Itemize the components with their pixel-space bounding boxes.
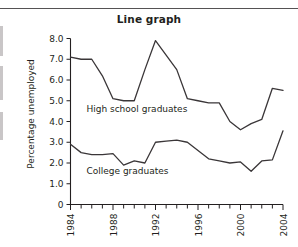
x-tick-label: 1996 <box>194 213 204 236</box>
line-graph-figure: Line graph Percentage unemployed 8.07.06… <box>0 0 298 247</box>
y-tick-label: 0 <box>58 200 64 210</box>
y-tick-label: 1.0 <box>49 179 64 189</box>
x-tick-label: 1984 <box>66 213 76 236</box>
plot-area: 8.07.06.05.04.03.02.01.00 19841988199219… <box>0 0 298 247</box>
y-tick-label: 3.0 <box>49 137 64 147</box>
y-tick-label: 6.0 <box>49 75 64 85</box>
series-line <box>71 41 284 130</box>
y-tick-label: 4.0 <box>49 117 64 127</box>
y-tick-label: 5.0 <box>49 96 64 106</box>
x-tick-label: 2004 <box>279 213 289 236</box>
x-axis-ticks: 198419881992199620002004 <box>66 205 289 237</box>
x-tick-label: 1988 <box>109 213 119 236</box>
series-line <box>71 131 284 171</box>
x-tick-label: 1992 <box>151 214 161 237</box>
y-tick-label: 7.0 <box>49 54 64 64</box>
y-axis-ticks: 8.07.06.05.04.03.02.01.00 <box>49 34 70 210</box>
y-tick-label: 8.0 <box>49 34 64 44</box>
x-tick-label: 2000 <box>236 213 246 236</box>
y-tick-label: 2.0 <box>49 158 64 168</box>
series-inline-label: College graduates <box>86 166 168 176</box>
axis-lines <box>71 39 284 205</box>
series-inline-label: High school graduates <box>86 104 187 114</box>
